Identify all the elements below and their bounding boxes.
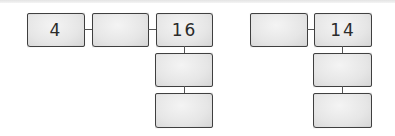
box-right-4[interactable]: [313, 93, 372, 128]
top-border-line: [0, 0, 395, 3]
box-value: 4: [50, 20, 63, 40]
box-left-3[interactable]: 16: [156, 13, 213, 47]
box-left-5[interactable]: [155, 93, 213, 128]
box-left-1[interactable]: 4: [27, 13, 85, 47]
box-right-2[interactable]: 14: [314, 13, 372, 47]
box-value: 16: [172, 20, 198, 40]
box-value: 14: [330, 20, 356, 40]
box-right-1[interactable]: [250, 13, 308, 47]
box-left-2[interactable]: [92, 13, 149, 47]
box-right-3[interactable]: [313, 53, 372, 87]
box-left-4[interactable]: [155, 53, 213, 87]
